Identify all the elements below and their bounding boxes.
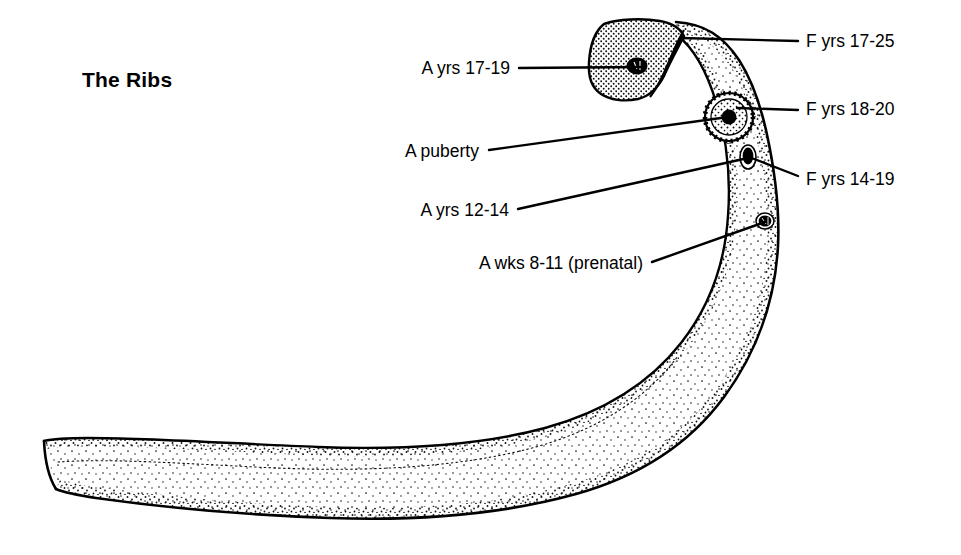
rib-head-epiphysis [589, 19, 688, 101]
leader-angle-ossification [518, 158, 748, 209]
leader-head-epiphysis [519, 67, 641, 68]
label-tubercle-epiphysis: A puberty [405, 143, 479, 161]
leader-tubercle-epiphysis [489, 117, 728, 150]
label-fusion-angle: F yrs 14-19 [806, 171, 895, 189]
label-fusion-head: F yrs 17-25 [806, 33, 895, 51]
figure-title: The Ribs [82, 68, 172, 92]
rib-edge-shading [44, 22, 778, 519]
label-fusion-tubercle: F yrs 18-20 [806, 101, 895, 119]
rib-outline [44, 22, 778, 519]
label-shaft-primary-centre: A wks 8-11 (prenatal) [479, 255, 643, 273]
label-head-epiphysis: A yrs 17-19 [421, 60, 510, 78]
figure-canvas: The Ribs A yrs 17-19 A puberty A yrs 12-… [0, 0, 961, 555]
label-angle-ossification: A yrs 12-14 [420, 202, 509, 220]
